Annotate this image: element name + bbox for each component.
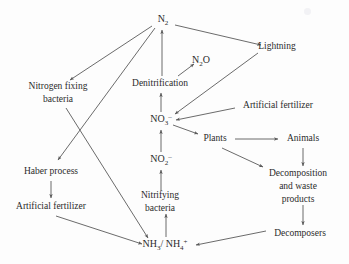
node-nitrifying-bacteria-line2: bacteria (145, 203, 176, 213)
edge-denitrification-to-n2o (178, 64, 194, 76)
diagram-canvas: N2 N2O Lightning Nitrogen fixing bacteri… (0, 0, 349, 264)
node-haber-process: Haber process (24, 166, 78, 176)
node-artificial-fertilizer-top: Artificial fertilizer (243, 100, 314, 110)
node-n2o: N2O (192, 54, 210, 67)
node-lightning: Lightning (258, 41, 296, 51)
node-decomposition-line2: and waste (279, 181, 317, 191)
node-decomposition: Decomposition (269, 168, 327, 178)
edge-plants-to-decomposition (222, 148, 263, 167)
node-n2: N2 (158, 13, 169, 26)
node-artificial-fertilizer-left: Artificial fertilizer (16, 201, 87, 211)
edge-artificial-fertilizer-left-to-nh4 (56, 216, 142, 244)
edge-decomposers-to-nh4 (196, 231, 266, 245)
node-nh3-nh4: NH3/ NH4+ (142, 237, 187, 251)
node-no2: NO2– (150, 152, 172, 166)
node-animals: Animals (287, 133, 319, 143)
edge-no3-to-plants (173, 125, 198, 134)
node-nitrogen-fixing-bacteria: Nitrogen fixing (29, 81, 88, 91)
edge-n2-to-lightning (175, 25, 261, 45)
node-plants: Plants (203, 133, 227, 143)
edge-nitrogen-fixing-bacteria-to-nh4 (66, 108, 148, 238)
scan-artifact (304, 8, 311, 15)
node-decomposition-line3: products (282, 194, 315, 204)
node-no3: NO3– (150, 112, 172, 126)
edge-n2-to-nitrogen-fixing-bacteria (70, 26, 152, 80)
node-nitrifying-bacteria: Nitrifying (141, 190, 179, 200)
node-decomposers: Decomposers (274, 228, 326, 238)
node-denitrification: Denitrification (132, 78, 188, 88)
node-nitrogen-fixing-bacteria-line2: bacteria (43, 94, 74, 104)
edge-artificial-fertilizer-to-no3 (176, 108, 235, 120)
edges-layer (51, 25, 303, 245)
nodes-layer: N2 N2O Lightning Nitrogen fixing bacteri… (16, 13, 327, 251)
nitrogen-cycle-diagram: N2 N2O Lightning Nitrogen fixing bacteri… (0, 0, 349, 264)
